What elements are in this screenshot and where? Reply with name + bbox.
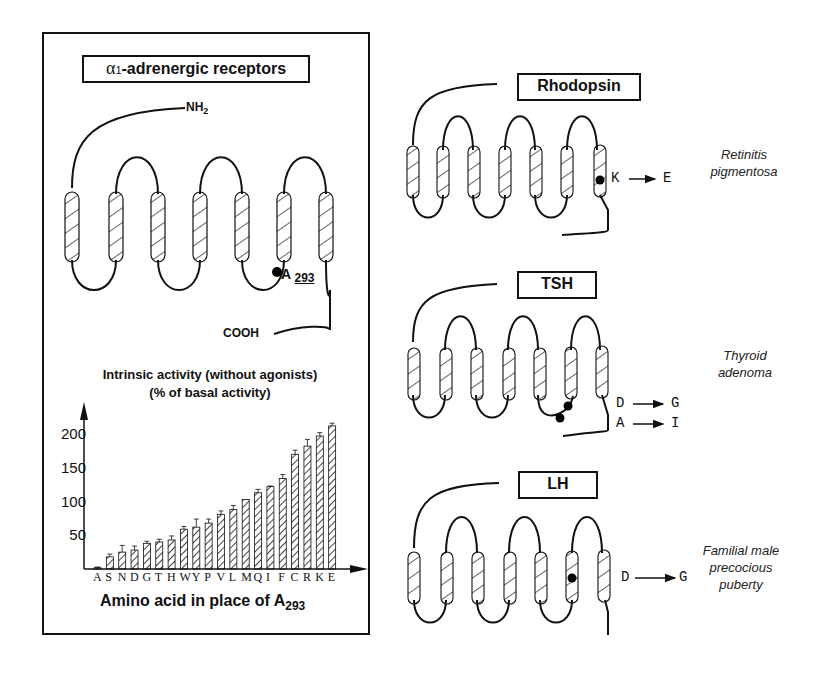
tsh-mutation-2-from: A [616,415,624,431]
bars-group [94,423,336,569]
bar-C [292,454,299,569]
tsh-mutation-2-to: I [671,415,679,431]
tsh-mutation-dot-2 [556,414,565,423]
x-axis-label-main: Amino acid in place of A [100,592,285,609]
bar-V [218,514,225,569]
bar-P [205,523,212,569]
tsh-disease-label: Thyroid adenoma [700,347,790,381]
y-tick-50: 50 [50,526,86,543]
x-tick-label: G [142,570,151,585]
tsh-title-box: TSH [517,271,597,299]
bar-H [168,540,175,569]
disease-line: precocious [682,559,800,576]
x-tick-label: T [155,570,162,585]
bar-N [119,552,126,569]
x-axis-label-sub: 293 [285,599,305,613]
x-tick-label: I [266,570,270,585]
lh-mutation-from: D [621,569,629,585]
x-axis-label: Amino acid in place of A293 [100,592,305,613]
rhodopsin-helices [407,145,606,198]
x-tick-label: C [291,570,299,585]
n-terminus-label: NH2 [186,100,208,116]
x-tick-label: R [303,570,311,585]
bar-Y [193,527,200,569]
x-tick-label: V [217,570,226,585]
y-tick-150: 150 [50,459,86,476]
bar-A [94,568,101,569]
c-terminus-label: COOH [223,326,259,340]
x-tick-label: Y [192,570,201,585]
y-axis-arrow-icon [80,402,88,420]
disease-line: Thyroid [700,347,790,364]
x-tick-label: N [118,570,127,585]
alpha1-helices [65,192,333,262]
n-terminus-sub: 2 [203,106,208,116]
alpha1-title-text: -adrenergic receptors [122,60,287,77]
disease-line: puberty [682,576,800,593]
rhodopsin-title-box: Rhodopsin [517,73,641,101]
rhodopsin-mutation-dot [596,176,605,185]
x-tick-label: Q [254,570,263,585]
alpha1-title-box: α1-adrenergic receptors [82,55,310,83]
y-tick-200: 200 [50,425,86,442]
bar-R [304,446,311,569]
x-tick-label: K [315,570,324,585]
x-tick-label: F [278,570,285,585]
bar-chart [80,402,368,573]
bar-F [279,479,286,569]
alpha-symbol: α [106,58,115,78]
mutation-site-number: 293 [294,271,314,285]
x-tick-label: D [130,570,139,585]
x-tick-label: P [204,570,211,585]
x-tick-label: W [179,570,190,585]
disease-line: Familial male [682,542,800,559]
chart-title-line2: (% of basal activity) [60,384,360,402]
chart-title-line1: Intrinsic activity (without agonists) [60,366,360,384]
rhodopsin-mutation-to: E [663,170,671,186]
bar-M [242,499,249,569]
disease-line: pigmentosa [694,163,794,180]
lh-disease-label: Familial male precocious puberty [682,542,800,593]
bar-T [156,542,163,569]
bar-I [267,487,274,569]
x-tick-label: H [167,570,176,585]
n-terminus-text: NH [186,100,203,114]
bar-D [131,550,138,569]
bar-S [106,557,113,569]
rhodopsin-disease-label: Retinitis pigmentosa [694,146,794,180]
tsh-helices [408,346,608,400]
bar-Q [255,493,262,569]
x-tick-label: S [105,570,112,585]
tsh-mutation-1-to: G [671,395,679,411]
x-tick-label: L [229,570,236,585]
bar-G [143,543,150,569]
chart-title: Intrinsic activity (without agonists) (%… [60,366,360,402]
bar-W [180,529,187,569]
disease-line: Retinitis [694,146,794,163]
disease-line: adenoma [700,364,790,381]
rhodopsin-mutation-from: K [611,170,619,186]
bar-E [329,426,336,569]
x-tick-label: M [241,570,252,585]
tsh-mutation-1-from: D [616,395,624,411]
x-tick-label: A [93,570,102,585]
mutation-site-label: A 293 [281,266,315,282]
x-tick-label: E [328,570,335,585]
mutation-site-letter: A [281,266,291,282]
bar-K [316,436,323,569]
y-tick-100: 100 [50,493,86,510]
tsh-mutation-dot-1 [564,402,573,411]
bar-L [230,510,237,569]
lh-title-box: LH [518,471,598,499]
